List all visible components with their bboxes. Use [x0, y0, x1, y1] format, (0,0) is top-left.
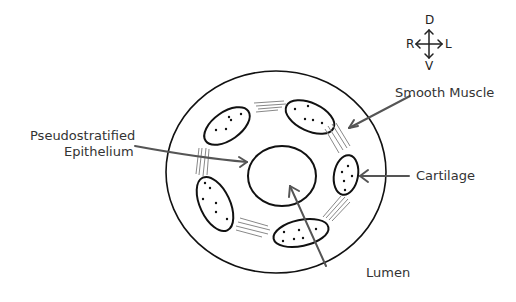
epithelium-label-line2: Epithelium — [64, 144, 134, 160]
compass-ventral-label: V — [425, 59, 433, 73]
smooth-muscle-label: Smooth Muscle — [395, 85, 494, 101]
smooth-muscle-strands — [196, 101, 350, 237]
compass-left-label: L — [445, 37, 452, 51]
orientation-compass — [416, 30, 442, 58]
label-arrows — [135, 96, 410, 266]
lumen-outline — [248, 146, 316, 206]
lumen-label: Lumen — [366, 265, 410, 281]
cartilage-dots — [202, 105, 353, 242]
cartilage-rings — [189, 93, 361, 251]
compass-dorsal-label: D — [425, 13, 434, 27]
compass-right-label: R — [406, 37, 414, 51]
epithelium-label-line1: Pseudostratified — [30, 128, 135, 144]
cartilage-label: Cartilage — [416, 168, 475, 184]
